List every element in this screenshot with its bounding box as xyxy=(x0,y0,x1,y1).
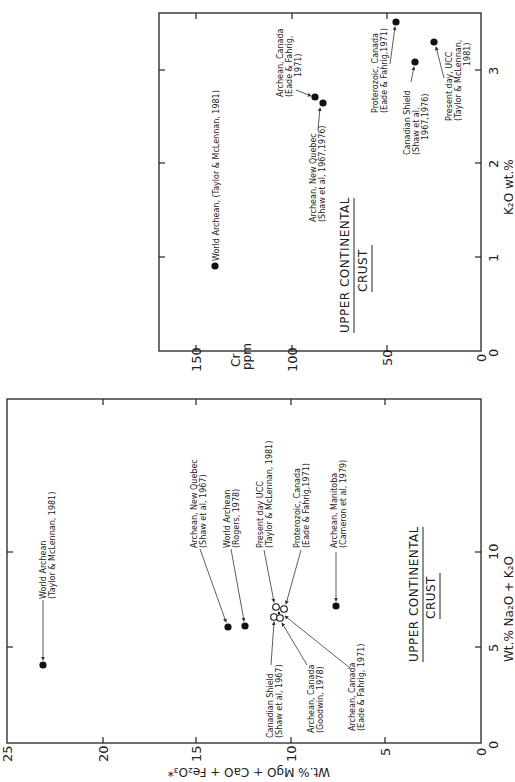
bottom-label-wa-r-1: World Archean xyxy=(223,490,232,548)
bottom-label-nq-1: Archean, New Quebec xyxy=(190,459,199,548)
top-crust-label-line1: UPPER CONTINENTAL xyxy=(338,197,352,333)
top-point-world-archean xyxy=(211,262,218,269)
top-k2o-tick-2: 2 xyxy=(486,160,501,168)
bottom-label-wa-r-2: (Rogers, 1978) xyxy=(232,489,241,548)
top-label-shield-1: Canadian Shield xyxy=(403,90,412,155)
top-point-canadian-shield xyxy=(411,58,418,65)
bottom-x-tick-10: 10 xyxy=(486,543,501,560)
bottom-point-archean-canada-goodwin xyxy=(277,615,284,622)
top-label-ucc-3: 1981) xyxy=(463,43,472,66)
bottom-label-wa-tm-1: World Archean xyxy=(39,541,48,599)
top-label-ucc-2: (Taylor & McLennan, xyxy=(454,40,463,121)
bottom-y-ticks xyxy=(103,399,385,743)
bottom-point-world-archean-tm xyxy=(39,661,46,668)
top-k2o-tick-1: 1 xyxy=(486,254,501,262)
bottom-crust-label-line2: CRUST xyxy=(424,576,438,619)
bottom-label-ucc-1: Present day UCC xyxy=(256,481,265,548)
bottom-label-goodwin-1: Archean, Canada xyxy=(307,664,316,733)
top-label-proterozoic-1: Proterozoic, Canada xyxy=(371,33,380,113)
bottom-label-prot-2: (Eade & Fahrig,1971) xyxy=(302,463,311,548)
top-k2o-tick-3: 3 xyxy=(486,67,501,75)
bottom-y-tick-25: 25 xyxy=(0,745,15,762)
bottom-label-wa-tm-2: (Taylor & McLennan, 1981) xyxy=(48,492,57,599)
bottom-label-man-2: (Cameron et al, 1979) xyxy=(339,460,348,548)
bottom-point-archean-canada-ef-anchor xyxy=(278,612,280,614)
bottom-y-tick-10: 10 xyxy=(284,745,299,762)
top-label-archean-canada-3: 1971) xyxy=(294,54,303,77)
bottom-x-axis-title: Wt.% Na₂O + K₂O xyxy=(502,556,515,662)
figure-page: 150 100 50 0 Cr ppm 0 1 2 3 K₂O wt.% UPP… xyxy=(0,0,515,782)
bottom-y-tick-15: 15 xyxy=(189,745,204,762)
top-cr-tick-50: 50 xyxy=(380,349,395,366)
top-cr-tick-150: 150 xyxy=(189,347,204,372)
top-label-archean-canada-2: (Eade & Fahrig, xyxy=(285,36,294,97)
top-point-proterozoic xyxy=(392,18,399,25)
top-k2o-tick-0: 0 xyxy=(486,349,501,357)
bottom-label-ef-1: Archean, Canada xyxy=(348,662,357,731)
top-label-new-quebec-1: Archean, New Quebec xyxy=(309,133,318,222)
bottom-y-tick-20: 20 xyxy=(96,745,111,762)
bottom-x-tick-0: 0 xyxy=(486,741,501,749)
bottom-point-proterozoic xyxy=(281,606,288,613)
bottom-chart: 25 20 15 10 5 0 Wt.% MgO + CaO + Fe₂O₃* … xyxy=(0,399,515,779)
top-k2o-axis-title: K₂O wt.% xyxy=(502,159,515,215)
top-point-new-quebec xyxy=(319,99,326,106)
bottom-label-ucc-2: (Taylor & McLennan, 1981) xyxy=(265,441,274,548)
bottom-y-tick-5: 5 xyxy=(378,748,393,756)
top-label-world-archean: World Archean, (Taylor & McLennan, 1981) xyxy=(212,90,221,261)
top-label-proterozoic-2: (Eade & Fahrig,1971) xyxy=(380,28,389,113)
bottom-label-cs-1: Canadian Shield xyxy=(266,673,275,738)
top-crust-label-line2: CRUST xyxy=(356,249,370,292)
top-cr-tick-100: 100 xyxy=(285,347,300,372)
top-label-archean-canada-1: Archean, Canada xyxy=(276,28,285,97)
top-ppm-axis-title: ppm xyxy=(240,343,254,370)
top-label-shield-3: 1967,1976) xyxy=(421,94,430,140)
top-label-shield-2: (Shaw et al, xyxy=(412,107,421,155)
top-label-ucc-1: Present day, UCC xyxy=(445,51,454,121)
bottom-label-cs-2: (Shaw et al, 1967) xyxy=(275,664,284,738)
bottom-point-new-quebec xyxy=(224,623,231,630)
bottom-label-prot-1: Proterozoic, Canada xyxy=(293,468,302,548)
bottom-label-goodwin-2: (Goodwin, 1978) xyxy=(316,666,325,733)
bottom-label-man-1: Archean, Manitoba xyxy=(330,473,339,548)
bottom-y-axis-title: Wt.% MgO + CaO + Fe₂O₃* xyxy=(168,765,330,779)
bottom-label-ef-2: (Eade & Fahrig, 1971) xyxy=(357,644,366,731)
top-point-present-ucc xyxy=(430,38,437,45)
top-point-archean-canada xyxy=(311,93,318,100)
bottom-point-present-ucc xyxy=(273,604,280,611)
bottom-x-tick-5: 5 xyxy=(486,644,501,652)
top-label-new-quebec-2: (Shaw et al, 1967,1976) xyxy=(318,126,327,222)
bottom-point-manitoba xyxy=(332,602,339,609)
bottom-point-world-archean-rogers xyxy=(241,622,248,629)
bottom-crust-label-line1: UPPER CONTINENTAL xyxy=(407,526,421,662)
top-chart: 150 100 50 0 Cr ppm 0 1 2 3 K₂O wt.% UPP… xyxy=(159,13,515,372)
bottom-label-nq-2: (Shaw et al, 1967) xyxy=(199,474,208,548)
